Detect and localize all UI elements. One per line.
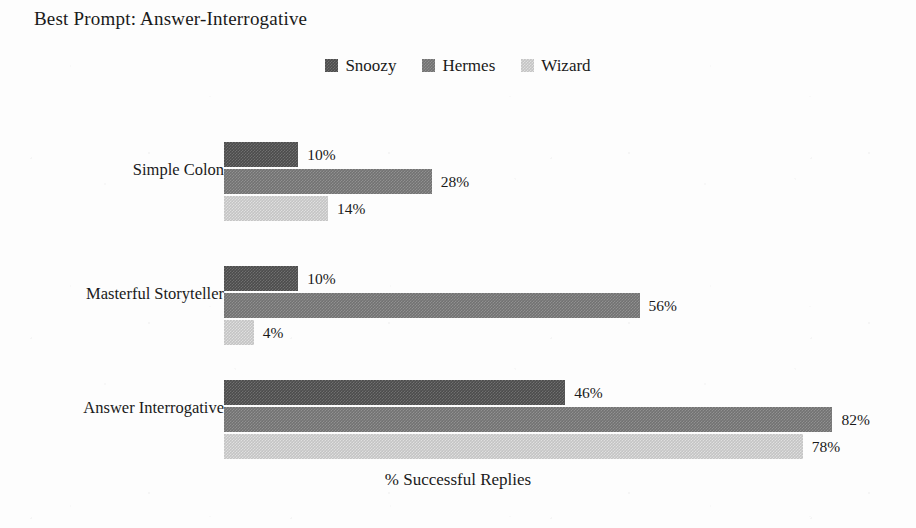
bar-wizard[interactable] xyxy=(224,434,803,459)
bar-row: 10% xyxy=(224,266,336,291)
bar-value-label: 4% xyxy=(263,325,284,341)
category-label: Masterful Storyteller xyxy=(4,284,224,304)
bar-value-label: 46% xyxy=(574,385,602,401)
bar-chart: Best Prompt: Answer-Interrogative Snoozy… xyxy=(0,0,916,528)
category-label: Answer Interrogative xyxy=(4,398,224,418)
bar-row: 4% xyxy=(224,320,283,345)
bar-value-label: 56% xyxy=(649,298,677,314)
bar-value-label: 78% xyxy=(812,439,840,455)
bar-row: 46% xyxy=(224,380,603,405)
bar-hermes[interactable] xyxy=(224,169,432,194)
bar-value-label: 14% xyxy=(337,201,365,217)
bar-wizard[interactable] xyxy=(224,320,254,345)
bar-value-label: 10% xyxy=(307,271,335,287)
bar-snoozy[interactable] xyxy=(224,142,298,167)
bar-row: 10% xyxy=(224,142,336,167)
bar-value-label: 82% xyxy=(841,412,869,428)
bar-row: 28% xyxy=(224,169,469,194)
bar-hermes[interactable] xyxy=(224,407,832,432)
bar-wizard[interactable] xyxy=(224,196,328,221)
bar-row: 14% xyxy=(224,196,365,221)
category-label: Simple Colon xyxy=(4,160,224,180)
bar-row: 56% xyxy=(224,293,677,318)
x-axis-title: % Successful Replies xyxy=(0,470,916,490)
bar-row: 82% xyxy=(224,407,870,432)
bar-snoozy[interactable] xyxy=(224,380,565,405)
bar-snoozy[interactable] xyxy=(224,266,298,291)
plot-area: Simple Colon10%28%14%Masterful Storytell… xyxy=(0,0,916,470)
bar-value-label: 10% xyxy=(307,147,335,163)
bar-group: Masterful Storyteller10%56%4% xyxy=(0,266,916,345)
bar-group: Simple Colon10%28%14% xyxy=(0,142,916,221)
bar-hermes[interactable] xyxy=(224,293,640,318)
bar-value-label: 28% xyxy=(441,174,469,190)
bar-group: Answer Interrogative46%82%78% xyxy=(0,380,916,459)
bar-row: 78% xyxy=(224,434,840,459)
